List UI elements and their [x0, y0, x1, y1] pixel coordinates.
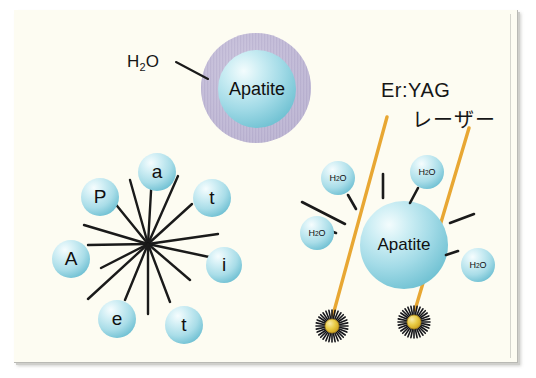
impact-burst-1	[316, 310, 348, 342]
ejection-mark-6	[450, 214, 474, 223]
letter-sphere-P	[81, 178, 119, 216]
laser-label-eryag: Er:YAG	[381, 79, 450, 102]
h2o-callout-label: H2O	[127, 52, 159, 73]
letter-sphere-t1	[193, 179, 231, 217]
h2o-callout-line	[176, 62, 208, 79]
h2o-sphere-2	[410, 155, 444, 189]
ejection-mark-7	[446, 251, 458, 255]
h2o-sphere-3	[300, 216, 334, 250]
h2o-callout-h: H	[127, 52, 139, 71]
apatite-core-sphere-right	[360, 201, 448, 289]
figure-root: H2O Apatite a P t A i e t Er:YAG レーザー Ap…	[0, 0, 536, 378]
h2o-sphere-4	[461, 248, 495, 282]
letter-sphere-e	[98, 300, 136, 338]
h2o-sphere-1	[321, 161, 355, 195]
impact-burst-2	[398, 306, 430, 338]
letter-sphere-a	[138, 153, 176, 191]
figure-vector-layer	[0, 0, 536, 378]
top-apatite-group	[176, 33, 311, 143]
letter-sphere-t2	[165, 306, 203, 344]
ejection-mark-2	[348, 195, 356, 209]
laser-label-japanese: レーザー	[412, 104, 496, 133]
apatite-core-sphere-top	[218, 50, 296, 128]
letter-sphere-A	[52, 240, 90, 278]
letter-sphere-i	[206, 247, 242, 283]
ejection-mark-4	[410, 188, 418, 203]
h2o-callout-o: O	[146, 52, 159, 71]
